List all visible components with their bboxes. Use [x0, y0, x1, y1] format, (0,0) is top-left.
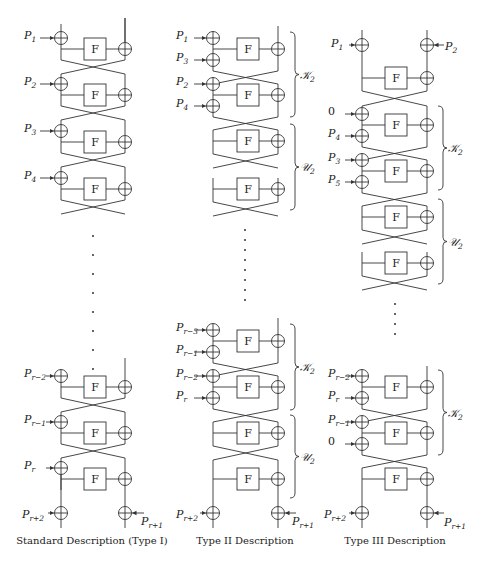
input-label-Pr-1: Pr−1: [23, 413, 46, 428]
xor-icon: [356, 176, 369, 189]
xor-icon: [55, 416, 68, 429]
caption-type3: Type III Description: [344, 535, 446, 546]
f-function-box: F: [385, 206, 407, 228]
xor-icon: [119, 381, 132, 394]
xor-icon: [55, 125, 68, 138]
xor-icon: [421, 507, 434, 520]
ellipsis-dot: [92, 330, 94, 332]
brace-K2: 𝒦2: [290, 324, 315, 410]
ellipsis-dot: [394, 303, 396, 305]
xor-icon: [207, 32, 220, 45]
f-function-box: F: [84, 178, 106, 200]
xor-icon: [207, 54, 220, 67]
svg-text:F: F: [91, 473, 99, 486]
svg-text:F: F: [392, 72, 400, 85]
ellipsis-dot: [244, 279, 246, 281]
input-label-Pr: Pr: [175, 389, 187, 404]
f-function-box: F: [237, 84, 259, 106]
type1-column: P1FP2FP3FP4FPr−2FPr−1FPrFPr+2Pr+1: [21, 18, 163, 530]
caption-type1: Standard Description (Type I): [16, 535, 168, 546]
xor-icon: [421, 119, 434, 132]
svg-text:𝒦2: 𝒦2: [300, 361, 315, 376]
brace-K2: 𝒦2: [438, 370, 463, 455]
svg-text:𝒰2: 𝒰2: [300, 451, 315, 466]
xor-icon: [55, 507, 68, 520]
svg-text:F: F: [91, 136, 99, 149]
svg-text:𝒰2: 𝒰2: [300, 161, 315, 176]
ellipsis-dot: [92, 311, 94, 313]
ellipsis-dot: [244, 239, 246, 241]
input-label-P2: P2: [175, 75, 188, 90]
xor-icon: [207, 78, 220, 91]
svg-text:F: F: [244, 43, 252, 56]
xor-icon: [119, 507, 132, 520]
ellipsis-dot: [244, 249, 246, 251]
f-function-box: F: [237, 330, 259, 352]
ellipsis-dot: [92, 292, 94, 294]
xor-icon: [421, 39, 434, 52]
xor-icon: [421, 427, 434, 440]
xor-icon: [119, 183, 132, 196]
f-function-box: F: [385, 376, 407, 398]
f-function-box: F: [385, 422, 407, 444]
xor-icon: [272, 381, 285, 394]
xor-icon: [421, 473, 434, 486]
output-label-right: Pr+1: [291, 515, 314, 530]
input-label-0: 0: [328, 105, 335, 118]
svg-text:F: F: [392, 119, 400, 132]
brace-U2: 𝒰2: [290, 124, 315, 210]
input-label-Pr-1: Pr−1: [327, 413, 350, 428]
ellipsis-dot: [244, 259, 246, 261]
ellipsis-dot: [394, 323, 396, 325]
svg-text:F: F: [244, 381, 252, 394]
xor-icon: [421, 211, 434, 224]
xor-icon: [356, 130, 369, 143]
svg-text:F: F: [244, 335, 252, 348]
output-label-left: Pr+2: [323, 508, 346, 523]
output-label-right: Pr+1: [140, 515, 163, 530]
svg-text:F: F: [91, 89, 99, 102]
svg-text:F: F: [392, 257, 400, 270]
f-function-box: F: [84, 131, 106, 153]
type2-column: P1P3FP2P4FFF𝒦2𝒰2Pr−3Pr−1FPr−2PrFFF𝒦2𝒰2Pr…: [175, 26, 315, 530]
f-function-box: F: [385, 67, 407, 89]
ellipsis-dot: [244, 289, 246, 291]
svg-text:F: F: [91, 43, 99, 56]
f-function-box: F: [84, 422, 106, 444]
xor-icon: [421, 165, 434, 178]
type3-column: P1P2F0P4FP3P5FFF𝒦2𝒰2Pr−2PrFPr−10FF𝒦2Pr+2…: [323, 30, 466, 531]
xor-icon: [55, 172, 68, 185]
f-function-box: F: [237, 38, 259, 60]
svg-text:F: F: [244, 183, 252, 196]
xor-icon: [272, 89, 285, 102]
ellipsis-dot: [244, 299, 246, 301]
svg-text:𝒦2: 𝒦2: [448, 407, 463, 422]
xor-icon: [55, 462, 68, 475]
f-function-box: F: [237, 422, 259, 444]
xor-icon: [207, 346, 220, 359]
f-function-box: F: [237, 376, 259, 398]
ellipsis-dot: [92, 349, 94, 351]
xor-icon: [119, 136, 132, 149]
ellipsis-dot: [92, 273, 94, 275]
svg-text:𝒰2: 𝒰2: [448, 236, 463, 251]
input-label-P3: P3: [23, 122, 36, 137]
input-label-P1: P1: [175, 29, 188, 44]
xor-icon: [119, 427, 132, 440]
output-label-left: Pr+2: [175, 508, 198, 523]
xor-icon: [272, 335, 285, 348]
svg-text:F: F: [91, 427, 99, 440]
input-label-P2: P2: [444, 40, 457, 55]
input-label-0: 0: [328, 435, 335, 448]
ellipsis-dot: [92, 235, 94, 237]
xor-icon: [272, 183, 285, 196]
svg-text:F: F: [91, 183, 99, 196]
xor-icon: [207, 392, 220, 405]
xor-icon: [207, 324, 220, 337]
xor-icon: [272, 507, 285, 520]
xor-icon: [356, 154, 369, 167]
input-label-Pr-2: Pr−2: [175, 367, 198, 382]
f-function-box: F: [84, 468, 106, 490]
xor-icon: [272, 135, 285, 148]
f-function-box: F: [237, 468, 259, 490]
